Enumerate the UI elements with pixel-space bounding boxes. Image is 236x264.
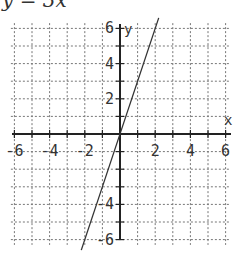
y-tick-label: 2 bbox=[105, 90, 114, 108]
x-axis-label: x bbox=[224, 112, 232, 128]
x-tick-label: 4 bbox=[186, 142, 195, 160]
coordinate-plane: -6-4-2246642-4-6 x y bbox=[0, 0, 236, 264]
x-tick-label: -2 bbox=[76, 142, 94, 160]
x-tick-label: 2 bbox=[151, 142, 160, 160]
y-axis-label: y bbox=[124, 21, 132, 37]
y-tick-label: 6 bbox=[105, 19, 114, 37]
x-tick-label: -4 bbox=[41, 142, 59, 160]
y-tick-label: 4 bbox=[105, 55, 114, 73]
x-tick-label: 6 bbox=[221, 142, 230, 160]
x-tick-label: -6 bbox=[5, 142, 23, 160]
y-tick-label: -6 bbox=[96, 231, 114, 249]
